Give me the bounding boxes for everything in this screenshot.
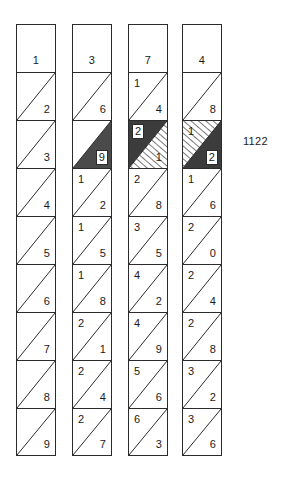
cell-digit-lower: 8 (100, 296, 106, 307)
cell-digit-upper: 1 (188, 174, 194, 185)
column-1-cell-2: 3 (16, 120, 56, 168)
cell-digit-lower: 5 (156, 248, 162, 259)
column-1-cell-3: 4 (16, 168, 56, 216)
cell-digit-lower: 5 (100, 248, 106, 259)
cell-digit-lower: 5 (44, 248, 50, 259)
cell-digit-lower: 2 (100, 200, 106, 211)
column-3-cell-7: 56 (128, 360, 168, 408)
cell-digit-center: 1 (17, 55, 55, 66)
cell-digit-lower: 7 (44, 344, 50, 355)
column-1-cell-1: 2 (16, 72, 56, 120)
cell-digit-upper: 3 (134, 222, 140, 233)
cell-digit-upper: 2 (78, 414, 84, 425)
cell-digit-lower: 6 (156, 392, 162, 403)
column-3-cell-0: 7 (128, 24, 168, 72)
column-1-cell-5: 6 (16, 264, 56, 312)
column-2-cell-5: 18 (72, 264, 112, 312)
column-4-cell-7: 32 (182, 360, 222, 408)
cell-digit-upper: 2 (78, 366, 84, 377)
column-2-cell-3: 12 (72, 168, 112, 216)
cell-digit-lower: 9 (156, 344, 162, 355)
cell-digit-upper: 1 (78, 174, 84, 185)
cell-digit-lower: 2 (206, 150, 218, 165)
cell-digit-lower: 4 (156, 104, 162, 115)
column-3-cell-2: 21 (128, 120, 168, 168)
cell-digit-lower: 6 (210, 439, 216, 450)
column-2-cell-4: 15 (72, 216, 112, 264)
column-2-cell-7: 24 (72, 360, 112, 408)
column-3-cell-5: 42 (128, 264, 168, 312)
cell-digit-lower: 7 (100, 439, 106, 450)
cell-digit-lower: 1 (156, 152, 162, 163)
cell-digit-upper: 2 (78, 318, 84, 329)
column-2-cell-8: 27 (72, 408, 112, 456)
cell-digit-upper: 2 (132, 124, 144, 139)
column-3: 71421283542495663 (128, 24, 168, 456)
column-2-cell-0: 3 (72, 24, 112, 72)
column-1-cell-6: 7 (16, 312, 56, 360)
cell-digit-upper: 3 (188, 366, 194, 377)
column-1: 123456789 (16, 24, 56, 456)
column-4-cell-2: 12 (182, 120, 222, 168)
lattice-multiplication-figure: 1234567893691215182124277142128354249566… (0, 0, 285, 483)
cell-digit-upper: 2 (188, 270, 194, 281)
cell-digit-upper: 4 (134, 318, 140, 329)
cell-digit-lower: 8 (210, 104, 216, 115)
cell-digit-upper: 2 (134, 174, 140, 185)
cell-digit-upper: 1 (188, 126, 194, 137)
cell-digit-lower: 2 (156, 296, 162, 307)
cell-digit-lower: 0 (210, 248, 216, 259)
cell-digit-lower: 3 (156, 439, 162, 450)
column-2-cell-6: 21 (72, 312, 112, 360)
cell-digit-center: 4 (183, 55, 221, 66)
column-4-cell-4: 20 (182, 216, 222, 264)
cell-digit-lower: 1 (100, 344, 106, 355)
column-4-cell-5: 24 (182, 264, 222, 312)
cell-digit-lower: 4 (100, 392, 106, 403)
cell-digit-lower: 6 (210, 200, 216, 211)
cell-digit-upper: 2 (188, 318, 194, 329)
column-3-cell-6: 49 (128, 312, 168, 360)
cell-digit-lower: 4 (44, 200, 50, 211)
column-1-cell-0: 1 (16, 24, 56, 72)
cell-digit-center: 7 (129, 55, 167, 66)
cell-digit-upper: 1 (78, 222, 84, 233)
column-4: 4812162024283236 (182, 24, 222, 456)
column-3-cell-4: 35 (128, 216, 168, 264)
cell-digit-upper: 6 (134, 414, 140, 425)
cell-digit-upper: 3 (188, 414, 194, 425)
cell-digit-lower: 9 (96, 150, 108, 165)
cell-digit-upper: 1 (78, 270, 84, 281)
cell-digit-lower: 9 (44, 439, 50, 450)
column-4-cell-1: 8 (182, 72, 222, 120)
cell-digit-upper: 4 (134, 270, 140, 281)
cell-digit-upper: 1 (134, 78, 140, 89)
column-3-cell-3: 28 (128, 168, 168, 216)
column-2: 369121518212427 (72, 24, 112, 456)
cell-digit-lower: 8 (210, 344, 216, 355)
column-1-cell-7: 8 (16, 360, 56, 408)
column-2-cell-2: 9 (72, 120, 112, 168)
cell-digit-lower: 4 (210, 296, 216, 307)
column-4-cell-8: 36 (182, 408, 222, 456)
column-3-cell-1: 14 (128, 72, 168, 120)
column-4-cell-0: 4 (182, 24, 222, 72)
side-label-total: 1122 (243, 135, 268, 147)
cell-digit-lower: 8 (156, 200, 162, 211)
cell-digit-lower: 6 (100, 104, 106, 115)
cell-digit-upper: 5 (134, 366, 140, 377)
cell-digit-lower: 3 (44, 152, 50, 163)
cell-digit-lower: 2 (44, 104, 50, 115)
cell-digit-lower: 6 (44, 296, 50, 307)
column-4-cell-6: 28 (182, 312, 222, 360)
column-2-cell-1: 6 (72, 72, 112, 120)
cell-digit-upper: 2 (188, 222, 194, 233)
cell-digit-lower: 2 (210, 392, 216, 403)
column-1-cell-4: 5 (16, 216, 56, 264)
cell-digit-center: 3 (73, 55, 111, 66)
column-4-cell-3: 16 (182, 168, 222, 216)
column-3-cell-8: 63 (128, 408, 168, 456)
cell-digit-lower: 8 (44, 392, 50, 403)
column-1-cell-8: 9 (16, 408, 56, 456)
